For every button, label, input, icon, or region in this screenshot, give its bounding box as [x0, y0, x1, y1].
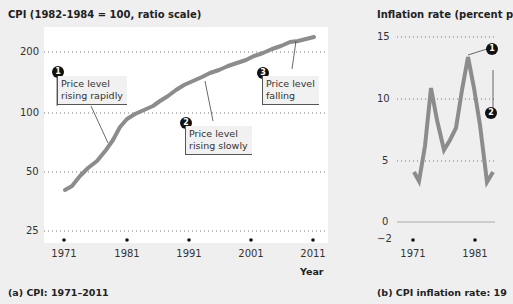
x-tick-b-1971: 1971	[400, 248, 425, 259]
callout-rising-rapidly: Price level rising rapidly	[57, 76, 127, 105]
callout-1-line1: Price level	[61, 78, 123, 90]
panel-b-x-dots	[411, 238, 477, 242]
x-axis-label: Year	[300, 266, 324, 277]
y-tick-0: 0	[382, 216, 388, 227]
y-tick-200: 200	[20, 46, 39, 57]
y-tick-neg2: −2	[377, 233, 392, 244]
callout-rising-slowly: Price level rising slowly	[185, 126, 252, 155]
callout-3-line1: Price level	[266, 78, 315, 90]
callout-falling: Price level falling	[262, 76, 319, 105]
x-tick-2001: 2001	[238, 248, 263, 259]
panel-b-title: Inflation rate (percent p	[377, 9, 513, 20]
x-tick-1971: 1971	[51, 248, 76, 259]
leader-1	[91, 106, 108, 143]
callout-1-line2: rising rapidly	[61, 90, 123, 102]
panel-b-caption: (b) CPI inflation rate: 19	[377, 287, 507, 298]
y-tick-5: 5	[382, 155, 388, 166]
callout-2-line2: rising slowly	[189, 140, 248, 152]
callout-b-badge-2: 2	[485, 107, 497, 119]
leader-2	[205, 81, 213, 121]
x-tick-2011: 2011	[300, 248, 325, 259]
callout-2-line1: Price level	[189, 128, 248, 140]
leader-3	[292, 41, 296, 69]
callout-b-badge-1: 1	[486, 43, 498, 55]
panel-a-caption: (a) CPI: 1971–2011	[8, 287, 109, 298]
y-tick-50: 50	[26, 166, 39, 177]
y-tick-10: 10	[377, 93, 390, 104]
x-tick-1991: 1991	[176, 248, 201, 259]
x-tick-1981: 1981	[114, 248, 139, 259]
y-tick-100: 100	[20, 107, 39, 118]
y-tick-15: 15	[377, 31, 390, 42]
callout-3-line2: falling	[266, 90, 315, 102]
panel-a-x-dots	[62, 238, 315, 242]
x-tick-b-1981: 1981	[462, 248, 487, 259]
inflation-line	[414, 57, 493, 182]
y-tick-25: 25	[26, 225, 39, 236]
